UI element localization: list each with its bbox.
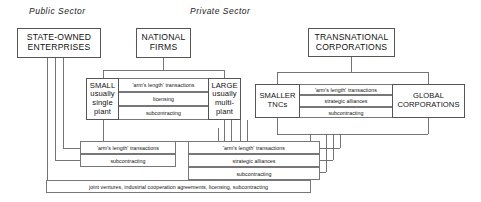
relation-label: subcontracting xyxy=(236,171,271,177)
node-small-firms[interactable]: SMALL usually single plant xyxy=(86,78,119,120)
node-smaller-tncs-label: SMALLER TNCs xyxy=(259,92,295,109)
relation-tnc-strategic-alliances[interactable]: strategic alliances xyxy=(299,95,393,107)
node-transnational-corporations-label: TRANSNATIONAL CORPORATIONS xyxy=(314,33,388,53)
relation-tnc-subcontracting[interactable]: subcontracting xyxy=(299,107,393,118)
node-global-corporations[interactable]: GLOBAL CORPORATIONS xyxy=(392,84,465,118)
relation-small-large-licensing[interactable]: licensing xyxy=(118,92,209,106)
node-state-owned-enterprises-label: STATE-OWNED ENTERPRISES xyxy=(27,33,91,53)
relation-national-tnc-subcontracting[interactable]: subcontracting xyxy=(188,167,320,180)
relation-label: subcontracting xyxy=(146,110,181,116)
node-transnational-corporations[interactable]: TRANSNATIONAL CORPORATIONS xyxy=(308,28,395,57)
node-national-firms-label: NATIONAL FIRMS xyxy=(142,33,186,53)
relation-national-tnc-arms-length[interactable]: 'arm's length' transactions xyxy=(188,141,320,154)
relation-small-large-subcontracting[interactable]: subcontracting xyxy=(118,106,209,120)
relation-label: joint ventures, industrial cooperation a… xyxy=(89,184,268,190)
relation-label: 'arm's length' transactions xyxy=(223,145,285,151)
diagram-canvas: Public Sector Private Sector STATE-OWNED… xyxy=(0,0,481,202)
relation-label: subcontracting xyxy=(110,158,145,164)
relation-label: subcontracting xyxy=(328,110,363,116)
heading-private-sector: Private Sector xyxy=(190,6,250,16)
node-national-firms[interactable]: NATIONAL FIRMS xyxy=(136,28,191,58)
relation-label: licensing xyxy=(153,96,174,102)
heading-public-sector: Public Sector xyxy=(29,6,86,16)
node-global-corporations-label: GLOBAL CORPORATIONS xyxy=(397,92,459,109)
relation-bottom-joint-ventures[interactable]: joint ventures, industrial cooperation a… xyxy=(46,180,311,193)
relation-tnc-arms-length[interactable]: 'arm's length' transactions xyxy=(299,84,393,95)
node-large-firms-label: LARGE usually multi- plant xyxy=(211,82,237,117)
relation-label: strategic alliances xyxy=(232,158,275,164)
relation-public-private-arms-length[interactable]: 'arm's length' transactions xyxy=(80,141,176,154)
relation-label: 'arm's length' transactions xyxy=(132,82,194,88)
relation-label: 'arm's length' transactions xyxy=(315,87,377,93)
relation-small-large-arms-length[interactable]: 'arm's length' transactions xyxy=(118,78,209,92)
relation-public-private-subcontracting[interactable]: subcontracting xyxy=(80,154,176,167)
relation-label: 'arm's length' transactions xyxy=(97,145,159,151)
relation-label: strategic alliances xyxy=(324,98,367,104)
node-large-firms[interactable]: LARGE usually multi- plant xyxy=(208,78,241,120)
node-state-owned-enterprises[interactable]: STATE-OWNED ENTERPRISES xyxy=(17,28,101,58)
node-smaller-tncs[interactable]: SMALLER TNCs xyxy=(255,84,300,118)
node-small-firms-label: SMALL usually single plant xyxy=(90,82,115,117)
relation-national-tnc-strategic-alliances[interactable]: strategic alliances xyxy=(188,154,320,167)
